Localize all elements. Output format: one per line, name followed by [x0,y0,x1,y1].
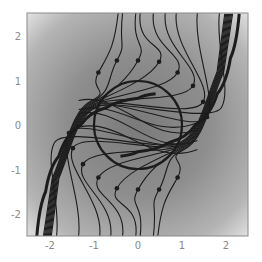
arrow-dot [201,100,206,105]
arrow-dot [136,187,141,192]
streamplot-chart: -2-1012 210-1-2 [0,0,262,262]
arrow-dot [191,84,196,89]
arrow-dot [81,162,86,167]
arrow-dot [67,131,72,136]
arrow-dot [136,58,141,63]
x-tick-label: 2 [223,240,229,251]
arrow-dot [115,186,120,191]
y-tick-label: 0 [15,120,21,131]
y-tick-label: -1 [11,165,21,176]
arrow-dot [157,60,162,65]
arrow-dot [115,58,120,63]
y-axis-ticks: 210-1-2 [11,31,21,220]
arrow-dot [205,115,210,120]
y-tick-label: 1 [15,76,21,87]
arrow-dot [175,70,180,75]
y-tick-label: 2 [15,31,21,42]
arrow-dot [96,175,101,180]
x-axis-ticks: -2-1012 [45,240,229,251]
x-tick-label: 1 [179,240,185,251]
arrow-dot [96,70,101,75]
arrow-dot [175,175,180,180]
x-tick-label: -2 [45,240,55,251]
plot-background [27,13,248,236]
y-tick-label: -2 [11,209,21,220]
arrow-dot [157,187,162,192]
x-tick-label: -1 [89,240,99,251]
x-tick-label: 0 [135,240,141,251]
arrow-dot [71,146,76,151]
